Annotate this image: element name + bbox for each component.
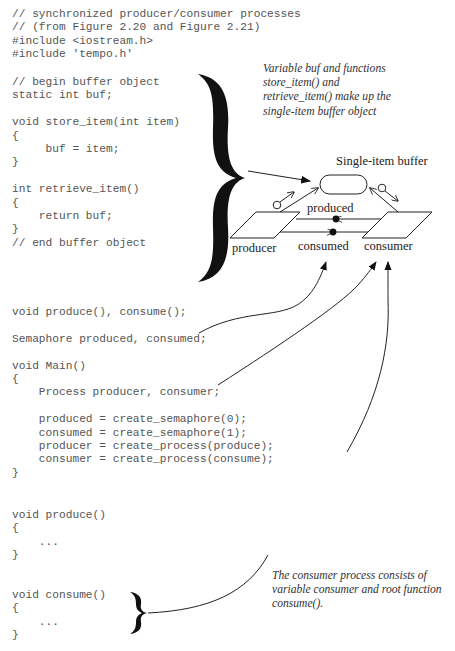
consumed-semaphore-icon: [330, 229, 337, 236]
small-brace-icon: [130, 592, 147, 634]
data-in-arrow: [280, 192, 294, 202]
produced-semaphore-icon: [333, 216, 340, 223]
consumer-label: consumer: [364, 239, 413, 253]
data-out-arrow: [385, 191, 398, 201]
consume-fn-arrow: [148, 555, 268, 613]
process-decl-arrow: [218, 262, 376, 385]
producer-label: producer: [232, 241, 277, 255]
buffer-node: [320, 175, 367, 194]
brace-to-buffer-arrow: [248, 171, 310, 181]
buffer-title: Single-item buffer: [336, 154, 429, 168]
produced-label: produced: [307, 201, 354, 215]
consumed-label: consumed: [298, 239, 349, 253]
diagram-overlay: Single-item buffer produced producer con…: [0, 0, 455, 651]
semaphore-decl-arrow: [199, 262, 326, 333]
consumer-parallelogram: [362, 212, 432, 238]
data-out-icon: [378, 184, 386, 192]
data-in-icon: [273, 201, 281, 209]
producer-parallelogram: [230, 212, 300, 238]
